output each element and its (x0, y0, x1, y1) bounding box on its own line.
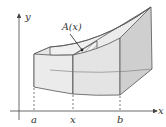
label-pointer-dot (81, 49, 84, 52)
cross-section-label: A(x) (61, 21, 82, 32)
x-axis-label: x (158, 105, 164, 116)
tick-label-x: x (70, 114, 76, 125)
tick-label-b: b (117, 114, 123, 125)
y-axis-label: y (24, 11, 31, 22)
volume-cross-section-diagram: y x A(x) a x b (0, 0, 166, 127)
tick-label-a: a (31, 114, 37, 125)
front-face-a-to-x (34, 54, 73, 94)
